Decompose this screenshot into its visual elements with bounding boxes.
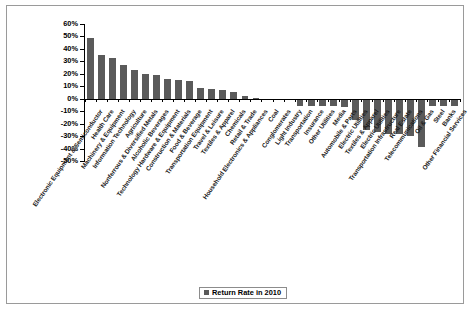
y-axis-tick-mark bbox=[80, 49, 84, 50]
plot-area bbox=[85, 24, 460, 161]
bar bbox=[440, 99, 447, 106]
x-axis-tick-mark bbox=[140, 99, 141, 102]
bar bbox=[230, 92, 237, 99]
y-axis-tick-label: 30% bbox=[63, 57, 78, 65]
x-axis-tick-mark bbox=[151, 99, 152, 102]
bar bbox=[87, 38, 94, 99]
x-axis-tick-mark bbox=[228, 99, 229, 102]
x-axis-tick-mark bbox=[383, 99, 384, 102]
x-axis-tick-mark bbox=[96, 99, 97, 102]
bar bbox=[109, 58, 116, 98]
x-axis-tick-mark bbox=[438, 99, 439, 102]
y-axis-tick-label: 60% bbox=[63, 20, 78, 28]
y-axis-tick-mark bbox=[80, 99, 84, 100]
y-axis-tick-mark bbox=[80, 111, 84, 112]
y-axis-tick-label: 50% bbox=[63, 32, 78, 40]
x-axis-tick-mark bbox=[129, 99, 130, 102]
x-axis-tick-mark bbox=[173, 99, 174, 102]
x-axis-tick-mark bbox=[317, 99, 318, 102]
y-axis-tick-mark bbox=[80, 161, 84, 162]
x-axis-tick-mark bbox=[427, 99, 428, 102]
y-axis-tick-label: 20% bbox=[63, 70, 78, 78]
x-axis-tick-mark bbox=[372, 99, 373, 102]
bar bbox=[153, 75, 160, 99]
y-axis-tick-label: -40% bbox=[61, 145, 78, 153]
bar bbox=[385, 99, 392, 134]
bar bbox=[142, 74, 149, 99]
bar bbox=[374, 99, 381, 132]
y-axis-tick-label: -10% bbox=[61, 107, 78, 115]
bar bbox=[186, 81, 193, 98]
x-axis-tick-mark bbox=[361, 99, 362, 102]
y-axis-tick-mark bbox=[80, 149, 84, 150]
x-axis-tick-mark bbox=[328, 99, 329, 102]
bar bbox=[219, 90, 226, 99]
x-axis-tick-mark bbox=[284, 99, 285, 102]
bar bbox=[418, 99, 425, 147]
bar bbox=[98, 55, 105, 99]
y-axis-tick-label: 40% bbox=[63, 45, 78, 53]
y-axis-tick-label: 0% bbox=[67, 95, 78, 103]
bar bbox=[341, 99, 348, 108]
x-axis-tick-mark bbox=[460, 99, 461, 102]
y-axis-tick-label: -50% bbox=[61, 157, 78, 165]
bar bbox=[297, 99, 304, 106]
y-axis-tick-mark bbox=[80, 74, 84, 75]
y-axis-tick-label: -20% bbox=[61, 120, 78, 128]
x-axis-tick-mark bbox=[261, 99, 262, 102]
y-axis-tick-labels: 60%50%40%30%20%10%0%-10%-20%-30%-40%-50% bbox=[35, 6, 78, 186]
bar bbox=[308, 99, 315, 106]
x-axis-tick-mark bbox=[295, 99, 296, 102]
x-axis-tick-mark bbox=[449, 99, 450, 102]
bar bbox=[407, 99, 414, 136]
bar bbox=[319, 99, 326, 106]
x-axis-tick-mark bbox=[206, 99, 207, 102]
y-axis-tick-mark bbox=[80, 136, 84, 137]
x-axis-tick-mark bbox=[273, 99, 274, 102]
y-axis-tick-mark bbox=[80, 61, 84, 62]
x-axis-tick-mark bbox=[107, 99, 108, 102]
bar bbox=[175, 80, 182, 99]
x-axis-tick-mark bbox=[394, 99, 395, 102]
x-axis-tick-mark bbox=[162, 99, 163, 102]
bar bbox=[363, 99, 370, 130]
bar bbox=[396, 99, 403, 134]
y-axis-tick-mark bbox=[80, 36, 84, 37]
legend-swatch-icon bbox=[204, 290, 209, 295]
bar bbox=[164, 79, 171, 98]
bar bbox=[131, 70, 138, 99]
legend-label: Return Rate in 2010 bbox=[212, 289, 281, 297]
x-axis-tick-mark bbox=[239, 99, 240, 102]
x-axis-tick-mark bbox=[405, 99, 406, 102]
bar bbox=[451, 99, 458, 106]
x-axis-tick-mark bbox=[195, 99, 196, 102]
x-axis-tick-mark bbox=[217, 99, 218, 102]
x-axis-tick-mark bbox=[184, 99, 185, 102]
bar bbox=[429, 99, 436, 106]
chart-legend: Return Rate in 2010 bbox=[199, 287, 287, 299]
chart-container: 60%50%40%30%20%10%0%-10%-20%-30%-40%-50%… bbox=[6, 5, 464, 304]
x-axis-tick-mark bbox=[339, 99, 340, 102]
x-axis-tick-mark bbox=[250, 99, 251, 102]
x-axis-tick-mark bbox=[118, 99, 119, 102]
bar bbox=[352, 99, 359, 120]
bar bbox=[330, 99, 337, 106]
bar bbox=[120, 65, 127, 99]
y-axis-tick-label: 10% bbox=[63, 82, 78, 90]
y-axis-tick-mark bbox=[80, 124, 84, 125]
x-axis-tick-mark bbox=[85, 99, 86, 102]
y-axis-tick-label: -30% bbox=[61, 132, 78, 140]
x-axis-tick-mark bbox=[416, 99, 417, 102]
x-axis-tick-mark bbox=[350, 99, 351, 102]
y-axis-tick-mark bbox=[80, 24, 84, 25]
bar bbox=[197, 88, 204, 99]
bar bbox=[208, 89, 215, 99]
y-axis-tick-mark bbox=[80, 86, 84, 87]
x-axis-tick-mark bbox=[306, 99, 307, 102]
